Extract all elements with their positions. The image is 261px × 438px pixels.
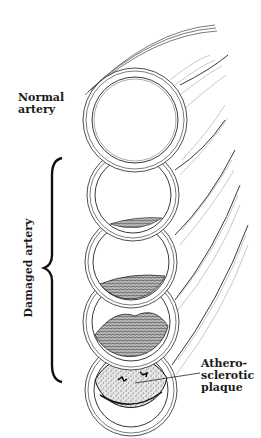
damaged-artery-label: Damaged artery <box>23 218 35 318</box>
curly-brace <box>44 158 62 382</box>
artery-stage-normal <box>83 68 187 172</box>
normal-artery-label: Normal artery <box>18 92 64 116</box>
atherosclerotic-plaque-label: Athero- sclerotic plaque <box>201 358 254 394</box>
plaque-label-line3: plaque <box>201 382 254 394</box>
normal-label-line2: artery <box>18 104 64 116</box>
